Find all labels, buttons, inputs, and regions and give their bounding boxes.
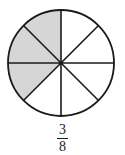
fraction: 3 8	[57, 123, 68, 154]
fraction-denominator: 8	[57, 140, 68, 154]
center-point	[59, 61, 62, 64]
fraction-numerator: 3	[57, 123, 68, 137]
fraction-label: 3 8	[0, 123, 125, 154]
